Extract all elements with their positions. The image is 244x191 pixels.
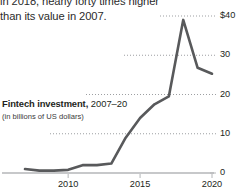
- gridlines-group: [50, 16, 216, 173]
- x-axis-tick-label: 2015: [120, 179, 160, 189]
- fintech-investment-line: [25, 20, 212, 171]
- y-axis-tick-label: $40: [220, 10, 235, 20]
- data-line-group: [25, 20, 212, 171]
- x-axis-tick-label: 2010: [48, 179, 88, 189]
- chart-canvas: [0, 0, 244, 191]
- x-axis-tick-label: 2020: [192, 179, 232, 189]
- y-axis-tick-label: 30: [220, 49, 230, 59]
- y-axis-tick-label: 10: [220, 128, 230, 138]
- y-axis-tick-label: 0: [220, 167, 225, 177]
- line-chart: 0102030$40 201020152020: [0, 0, 244, 191]
- y-axis-tick-label: 20: [220, 89, 230, 99]
- x-tick-marks-group: [68, 174, 212, 178]
